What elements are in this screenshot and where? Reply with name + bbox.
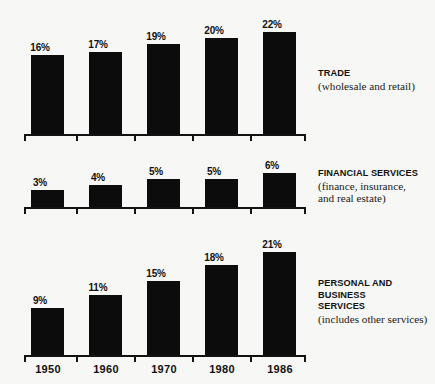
bar-trade-1986 [263,32,296,134]
axis-line-personal-and-business-services [24,355,306,357]
bar-value: 5% [132,166,180,177]
bar-personal-1950 [31,308,64,355]
bar-financial-1960 [89,185,122,207]
axis-tick [192,136,194,141]
bar-personal-1970 [147,281,180,355]
caption-subtitle-line-2: and real estate) [318,192,435,204]
axis-year-label-1980: 1980 [193,363,251,375]
caption-personal-and-business-services: PERSONAL AND BUSINESS SERVICES (includes… [318,278,435,325]
caption-subtitle: (wholesale and retail) [318,80,435,92]
axis-line-trade [24,134,306,136]
panel-personal-and-business-services: 9% 11% 15% 18% 21% 1950 1960 1970 1980 1… [0,240,435,384]
bar-value: 22% [248,19,296,30]
axis-tick [250,209,252,214]
caption-title-line-2: SERVICES [318,301,435,313]
panel-trade: 16% 17% 19% 20% 22% TRADE (wholesale and… [0,0,435,140]
bar-trade-1980 [205,38,238,134]
bar-value: 16% [16,42,64,53]
axis-tick [76,136,78,141]
caption-title-line-1: PERSONAL AND BUSINESS [318,278,435,301]
caption-financial-services: FINANCIAL SERVICES (finance, insurance, … [318,168,435,205]
axis-tick [192,357,194,362]
bar-chart-figure: 16% 17% 19% 20% 22% TRADE (wholesale and… [0,0,435,384]
axis-tick [250,357,252,362]
bar-value: 18% [190,252,238,263]
caption-title: FINANCIAL SERVICES [318,168,435,180]
bar-value: 5% [190,166,238,177]
axis-tick [250,136,252,141]
bar-financial-1950 [31,190,64,207]
caption-subtitle-line-1: (finance, insurance, [318,180,435,192]
bar-value: 15% [132,268,180,279]
axis-tick [192,209,194,214]
axis-tick [76,209,78,214]
axis-tick [134,136,136,141]
bar-value: 17% [74,39,122,50]
caption-title: TRADE [318,68,435,80]
bar-value: 21% [248,239,296,250]
axis-tick [24,209,26,214]
caption-subtitle: (includes other services) [318,313,435,325]
bar-value: 4% [74,172,122,183]
axis-tick [304,209,306,214]
panel-financial-services: 3% 4% 5% 5% 6% FINANCIAL SERVICES (finan… [0,150,435,212]
axis-tick [24,136,26,141]
bar-trade-1950 [31,55,64,134]
axis-year-label-1950: 1950 [19,363,77,375]
bar-personal-1986 [263,252,296,355]
bar-personal-1960 [89,295,122,355]
axis-year-label-1960: 1960 [77,363,135,375]
bar-financial-1980 [205,179,238,207]
bar-value: 19% [132,31,180,42]
caption-trade: TRADE (wholesale and retail) [318,68,435,92]
bar-value: 20% [190,25,238,36]
axis-tick [304,136,306,141]
plot-area-trade: 16% 17% 19% 20% 22% [24,0,306,140]
bar-financial-1970 [147,179,180,207]
plot-area-personal-and-business-services: 9% 11% 15% 18% 21% 1950 1960 1970 1980 1… [24,240,306,384]
bar-trade-1960 [89,52,122,134]
axis-tick [24,357,26,362]
axis-tick [134,209,136,214]
axis-year-label-1986: 1986 [251,363,309,375]
bar-trade-1970 [147,44,180,134]
plot-area-financial-services: 3% 4% 5% 5% 6% [24,150,306,212]
bar-value: 9% [16,295,64,306]
axis-tick [134,357,136,362]
bar-personal-1980 [205,265,238,355]
axis-line-financial-services [24,207,306,209]
axis-tick [304,357,306,362]
bar-value: 11% [74,282,122,293]
bar-value: 6% [248,160,296,171]
bar-value: 3% [16,177,64,188]
axis-tick [76,357,78,362]
axis-year-label-1970: 1970 [135,363,193,375]
bar-financial-1986 [263,173,296,207]
